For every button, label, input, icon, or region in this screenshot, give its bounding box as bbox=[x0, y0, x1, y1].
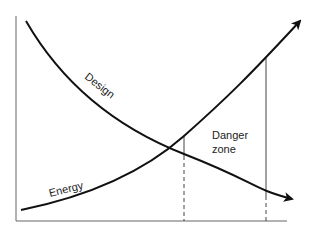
diagram-canvas: Design Energy Danger zone bbox=[0, 0, 311, 231]
energy-curve bbox=[21, 21, 300, 210]
danger-zone-label-line1: Danger bbox=[212, 129, 248, 141]
energy-label: Energy bbox=[48, 179, 85, 199]
design-curve bbox=[26, 21, 292, 199]
danger-zone-label-line2: zone bbox=[212, 143, 236, 155]
